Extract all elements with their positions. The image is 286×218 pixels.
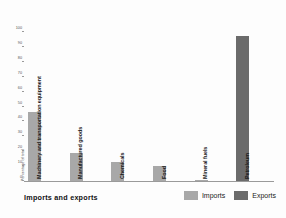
y-axis-tick-label: 70 — [18, 71, 22, 75]
legend-label: Exports — [252, 191, 276, 200]
bar-slot: Food — [153, 32, 166, 181]
bar-category-label: Mineral fuels — [202, 147, 208, 179]
bar-category-label: Machinery and transportation equipment — [36, 76, 42, 179]
bar[interactable] — [195, 180, 208, 181]
bar-slot: Chemicals — [111, 32, 124, 181]
legend-label: Imports — [202, 191, 225, 200]
legend-swatch — [234, 191, 248, 200]
y-axis-tick-label: 20 — [18, 145, 22, 149]
chart-figure: Percentage of total 01020304050607080901… — [0, 0, 286, 218]
y-axis-tick-label: 40 — [18, 115, 22, 119]
bar-slot: Manufactured goods — [70, 32, 83, 181]
bar-category-label: Food — [161, 166, 167, 179]
y-axis-tick-label: 90 — [18, 41, 22, 45]
chart-title: Imports and exports — [24, 193, 98, 202]
bar-slot: Mineral fuels — [195, 32, 208, 181]
y-axis-tick-label: 30 — [18, 130, 22, 134]
y-axis-tick-label: 100 — [16, 26, 22, 30]
x-axis-line — [24, 181, 274, 182]
y-axis-tick-label: 60 — [18, 86, 22, 90]
legend-item[interactable]: Imports — [184, 191, 225, 200]
bar-category-label: Manufactured goods — [77, 127, 83, 179]
chart-legend: ImportsExports — [184, 191, 276, 200]
y-axis-tick-label: 80 — [18, 56, 22, 60]
bar-category-label: Petroleum — [244, 153, 250, 179]
bar-group: Machinery and transportation equipmentMa… — [24, 32, 274, 181]
y-axis-tick-label: 10 — [18, 160, 22, 164]
plot-area: Percentage of total 01020304050607080901… — [24, 32, 274, 181]
bar-slot: Machinery and transportation equipment — [28, 32, 41, 181]
bar-category-label: Chemicals — [119, 152, 125, 179]
legend-swatch — [184, 191, 198, 200]
y-axis-tick-label: 50 — [18, 101, 22, 105]
bar-slot: Petroleum — [236, 32, 249, 181]
legend-item[interactable]: Exports — [234, 191, 276, 200]
y-axis-tick-label: 0 — [20, 175, 22, 179]
